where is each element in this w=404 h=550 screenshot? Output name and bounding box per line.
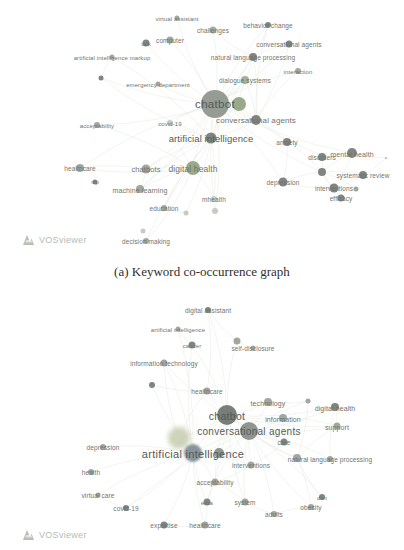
edge-line	[215, 465, 251, 482]
node-circle	[318, 168, 326, 176]
node-circle	[76, 164, 84, 172]
node-circle	[327, 456, 333, 462]
edge-line	[249, 431, 274, 514]
keyword-cooccurrence-graph-b: digital assistantartificial intelligence…	[0, 295, 404, 550]
paper-page: virtual assistantchallengesbehavior chan…	[0, 0, 404, 550]
node-circle	[211, 196, 217, 202]
node-circle	[385, 157, 388, 160]
node-circle	[110, 55, 115, 60]
node-circle	[168, 427, 190, 449]
node-circle	[161, 360, 168, 367]
edge-line	[164, 453, 193, 525]
node-circle	[161, 205, 167, 211]
edge-line	[215, 104, 283, 182]
edge-line	[80, 166, 146, 169]
edge-line	[215, 25, 268, 104]
node-circle	[279, 414, 287, 422]
node-circle	[248, 462, 255, 469]
edge-line	[208, 310, 237, 341]
edge-line	[98, 495, 126, 508]
edge-line	[297, 458, 322, 497]
node-circle	[99, 76, 104, 81]
node-circle	[136, 185, 144, 193]
edge-line	[322, 153, 352, 172]
edge-line	[297, 426, 337, 458]
edge-line	[283, 182, 334, 188]
node-circle	[334, 423, 341, 430]
node-circle	[141, 229, 146, 234]
node-circle	[143, 40, 150, 47]
edge-line	[253, 44, 289, 57]
node-circle	[167, 37, 174, 44]
node-circle	[283, 138, 291, 146]
edge-line	[215, 104, 322, 172]
node-circle	[143, 238, 149, 244]
edge-line	[283, 172, 322, 182]
node-circle	[295, 68, 301, 74]
edge-line	[152, 385, 207, 391]
node-circle	[201, 90, 229, 118]
vosviewer-watermark-b: VOSviewer	[22, 528, 87, 541]
node-circle	[331, 403, 339, 411]
edge-line	[164, 363, 179, 438]
edge-line	[283, 142, 287, 182]
edge-line	[297, 401, 308, 458]
edge-line	[80, 168, 193, 173]
edge-line	[146, 167, 193, 169]
edge-line	[256, 71, 298, 120]
node-circle	[184, 444, 202, 462]
node-circle	[167, 120, 173, 126]
edge-line	[297, 458, 311, 507]
node-circle	[184, 211, 189, 216]
node-circle	[281, 439, 288, 446]
node-circle	[142, 165, 151, 174]
edge-line	[297, 458, 330, 460]
edge-line	[352, 153, 386, 158]
vosviewer-logo-icon	[22, 233, 35, 246]
node-circle	[286, 41, 293, 48]
edge-line	[215, 482, 245, 502]
edge-line	[211, 104, 215, 199]
node-circle	[94, 122, 100, 128]
edge-line	[97, 125, 193, 168]
node-circle	[330, 184, 339, 193]
node-circle	[210, 27, 217, 34]
node-circle	[212, 479, 219, 486]
node-circle	[241, 76, 249, 84]
keyword-co-occurrence-graph-b-canvas	[0, 295, 404, 550]
node-circle	[88, 469, 94, 475]
node-circle	[206, 133, 217, 144]
node-circle	[264, 398, 272, 406]
edge-line	[283, 418, 337, 426]
node-circle	[249, 53, 257, 61]
vosviewer-label: VOSviewer	[39, 235, 87, 245]
edge-line	[146, 168, 193, 241]
node-circle	[318, 153, 326, 161]
edge-line	[192, 345, 227, 415]
edge-line	[98, 453, 193, 495]
node-circle	[347, 148, 357, 158]
node-circle	[161, 522, 168, 529]
edge-line	[245, 502, 274, 514]
node-circle	[359, 171, 367, 179]
node-circle	[265, 22, 271, 28]
node-circle	[279, 178, 288, 187]
node-circle	[149, 382, 155, 388]
node-circle	[271, 511, 277, 517]
node-circle	[242, 499, 249, 506]
edge-line	[101, 57, 112, 78]
vosviewer-label: VOSviewer	[39, 530, 87, 540]
node-circle	[232, 97, 246, 111]
edge-line	[146, 138, 211, 169]
vosviewer-logo-icon	[22, 528, 35, 541]
node-circle	[189, 342, 196, 349]
node-circle	[205, 307, 211, 313]
node-circle	[204, 499, 211, 506]
node-circle	[251, 115, 261, 125]
edge-line	[256, 25, 268, 120]
node-circle	[175, 16, 180, 21]
node-circle	[212, 208, 218, 214]
edge-line	[363, 158, 386, 175]
node-circle	[204, 388, 211, 395]
edge-line	[140, 138, 211, 189]
